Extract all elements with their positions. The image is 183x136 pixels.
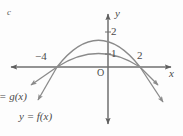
part-label: c [7, 8, 11, 17]
curve-f-left-arrow [38, 67, 57, 100]
curve-label-f: y = f(x) [19, 111, 52, 122]
curve-g-left-arrow [31, 67, 57, 85]
tick-label-y-2: 2 [111, 26, 117, 37]
origin-label: O [97, 68, 104, 78]
math-figure-parabolas: c y x O 2 1 2 −4 = g(x) y = f(x) [0, 0, 183, 136]
curve-label-g: = g(x) [0, 91, 27, 102]
curve-g-right-arrow [140, 67, 158, 85]
y-axis-label: y [115, 8, 120, 19]
tick-label-y-1: 1 [111, 48, 117, 59]
curve-g-body [57, 54, 140, 68]
tick-label-x-negative-4: −4 [35, 51, 47, 62]
x-axis-label: x [169, 68, 174, 79]
curve-f-right-arrow [140, 67, 163, 102]
tick-label-x-2: 2 [137, 50, 143, 61]
